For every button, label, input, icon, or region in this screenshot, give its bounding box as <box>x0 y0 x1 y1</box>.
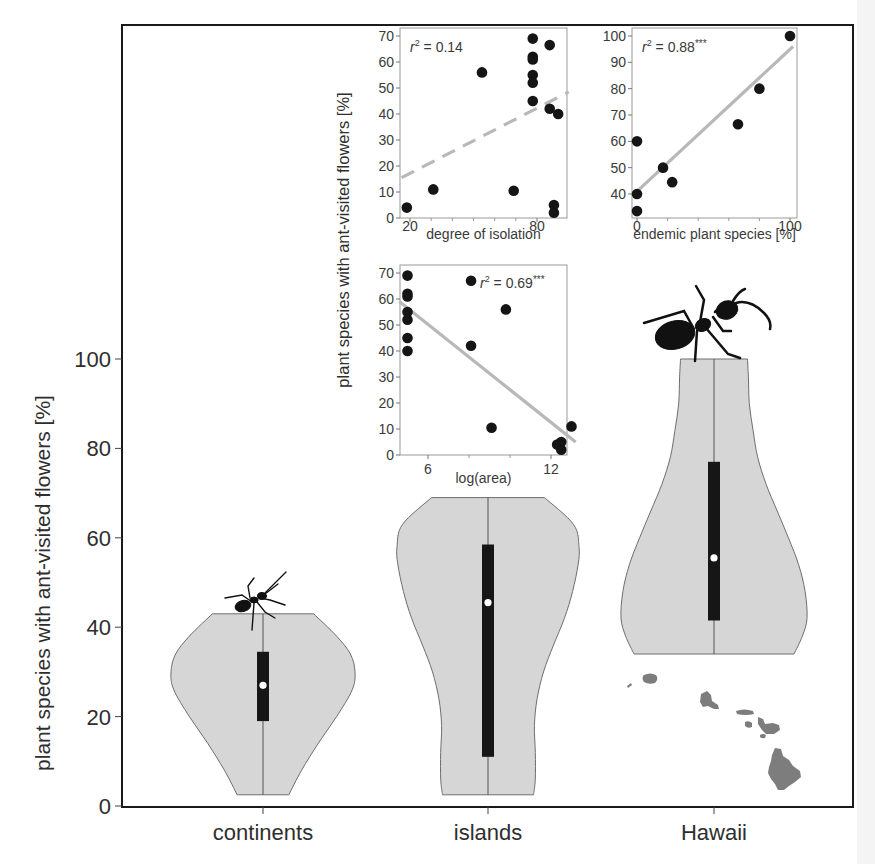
inset-data-point <box>566 421 577 432</box>
inset-data-point <box>527 54 538 65</box>
inset-data-point <box>658 162 669 173</box>
inset-y-tick-label: 0 <box>386 210 394 226</box>
inset-x-axis-label: endemic plant species [%] <box>633 226 796 242</box>
inset-data-point <box>402 291 413 302</box>
inset-data-point <box>527 96 538 107</box>
inset-data-point <box>508 185 519 196</box>
inset-data-point <box>527 78 538 89</box>
x-tick-label-continents: continents <box>213 820 313 845</box>
inset-y-tick-label: 60 <box>378 291 394 307</box>
inset-y-tick-label: 10 <box>378 184 394 200</box>
inset-y-tick-label: 70 <box>378 265 394 281</box>
inset-y-tick-label: 60 <box>378 54 394 70</box>
inset-data-point <box>466 276 477 287</box>
inset-data-point <box>466 341 477 352</box>
inset-y-tick-label: 90 <box>610 54 626 70</box>
inset-frame <box>400 265 567 455</box>
inset-x-axis-label: degree of isolation <box>426 226 540 242</box>
inset-data-point <box>549 208 560 219</box>
inset-y-tick-label: 50 <box>378 317 394 333</box>
inset-data-point <box>632 136 643 147</box>
median-dot <box>259 682 266 689</box>
r2-value: = 0.88 <box>652 39 695 55</box>
inset-y-tick-label: 70 <box>610 107 626 123</box>
inset-data-point <box>486 422 497 433</box>
y-tick-label: 60 <box>87 526 111 551</box>
inset-scatter-endemic: 4050607080901000100endemic plant species… <box>603 28 802 242</box>
median-dot <box>710 554 717 561</box>
inset-y-tick-label: 30 <box>378 132 394 148</box>
inset-data-point <box>667 177 678 188</box>
violin-hawaii <box>621 359 807 654</box>
x-tick-label-islands: islands <box>454 820 522 845</box>
inset-data-point <box>553 109 564 120</box>
inset-y-tick-label: 50 <box>610 160 626 176</box>
y-tick-label: 20 <box>87 705 111 730</box>
inset-scatter-area: 010203040506070612log(area)r2 = 0.69*** <box>378 265 576 486</box>
inset-data-point <box>402 346 413 357</box>
inset-frame <box>400 28 567 218</box>
inset-data-point <box>785 31 796 42</box>
inset-scatter-isolation: 0102030405060702080degree of isolationr2… <box>378 28 568 242</box>
inset-data-point <box>556 445 567 456</box>
r2-value: = 0.69 <box>490 275 533 291</box>
inset-data-point <box>501 304 512 315</box>
inset-y-tick-label: 0 <box>386 447 394 463</box>
iqr-bar <box>482 545 494 757</box>
y-tick-label: 80 <box>87 436 111 461</box>
inset-data-point <box>527 33 538 44</box>
inset-data-point <box>632 189 643 200</box>
significance-stars: *** <box>533 274 545 285</box>
inset-data-point <box>402 333 413 344</box>
inset-y-tick-label: 20 <box>378 395 394 411</box>
inset-y-axis-label: plant species with ant-visited flowers [… <box>334 92 352 387</box>
y-tick-label: 0 <box>99 794 111 819</box>
inset-x-tick-label: 12 <box>543 461 559 477</box>
inset-data-point <box>428 184 439 195</box>
violin-continents <box>171 614 355 795</box>
y-tick-label: 100 <box>74 347 111 372</box>
inset-y-tick-label: 40 <box>610 186 626 202</box>
inset-data-point <box>544 40 555 51</box>
inset-data-point <box>632 206 643 217</box>
inset-x-tick-label: 20 <box>402 218 418 234</box>
inset-y-tick-label: 10 <box>378 421 394 437</box>
figure: 020406080100 plant species with ant-visi… <box>0 0 875 864</box>
inset-frame <box>632 28 797 218</box>
inset-y-tick-label: 40 <box>378 106 394 122</box>
ant-large-icon <box>644 286 770 361</box>
inset-data-point <box>733 119 744 130</box>
inset-data-point <box>477 67 488 78</box>
inset-x-tick-label: 6 <box>424 461 432 477</box>
inset-data-point <box>402 270 413 281</box>
x-tick-label-hawaii: Hawaii <box>681 820 747 845</box>
inset-y-tick-label: 40 <box>378 343 394 359</box>
inset-y-tick-label: 100 <box>603 28 627 44</box>
main-x-axis: continentsislandsHawaii <box>213 807 747 845</box>
inset-y-tick-label: 20 <box>378 158 394 174</box>
significance-stars: *** <box>695 38 707 49</box>
violin-islands <box>397 498 580 795</box>
iqr-bar <box>708 462 720 621</box>
main-y-axis: 020406080100 <box>74 347 122 819</box>
inset-x-axis-label: log(area) <box>455 470 511 486</box>
inset-data-point <box>754 83 765 94</box>
median-dot <box>484 599 491 606</box>
main-y-axis-label: plant species with ant-visited flowers [… <box>31 395 54 771</box>
inset-y-tick-label: 50 <box>378 80 394 96</box>
inset-y-tick-label: 70 <box>378 28 394 44</box>
y-tick-label: 40 <box>87 615 111 640</box>
r2-value: = 0.14 <box>420 39 463 55</box>
inset-data-point <box>402 315 413 326</box>
inset-y-tick-label: 30 <box>378 369 394 385</box>
hawaii-map-icon <box>627 674 801 791</box>
inset-y-tick-label: 60 <box>610 133 626 149</box>
inset-y-tick-label: 80 <box>610 81 626 97</box>
inset-data-point <box>402 202 413 213</box>
